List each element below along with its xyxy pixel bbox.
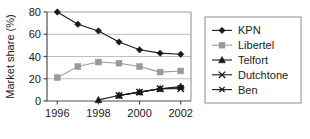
y-tick-label-0: 0 xyxy=(35,95,41,107)
x-tick-label-2002: 2002 xyxy=(168,107,192,119)
y-axis-ticks: 020406080 xyxy=(29,6,47,107)
legend-marker-square-libertel xyxy=(219,42,225,48)
data-point-libertel-1 xyxy=(75,64,81,70)
x-tick-label-1996: 1996 xyxy=(45,107,69,119)
legend-label-telfort: Telfort xyxy=(238,54,268,66)
y-tick-label-20: 20 xyxy=(29,73,41,85)
data-point-kpn-0 xyxy=(54,9,60,15)
series-line-kpn xyxy=(57,12,180,54)
legend-label-dutchtone: Dutchtone xyxy=(238,69,288,81)
legend: KPNLibertelTelfortDutchtoneBen xyxy=(205,17,301,103)
y-tick-label-80: 80 xyxy=(29,6,41,18)
legend-label-kpn: KPN xyxy=(238,24,261,36)
series-kpn xyxy=(54,9,184,58)
data-point-libertel-6 xyxy=(178,68,184,74)
series-libertel xyxy=(54,59,183,80)
legend-label-ben: Ben xyxy=(238,84,258,96)
y-axis-title: Market share (%) xyxy=(4,14,16,98)
data-point-kpn-1 xyxy=(75,21,81,27)
data-point-kpn-4 xyxy=(136,47,142,53)
data-point-libertel-0 xyxy=(54,75,60,81)
chart-container: 0204060801996199820002002Market share (%… xyxy=(0,0,310,139)
x-axis-ticks: 1996199820002002 xyxy=(45,101,193,119)
y-tick-label-60: 60 xyxy=(29,28,41,40)
data-point-libertel-3 xyxy=(116,60,122,66)
data-point-libertel-5 xyxy=(157,69,163,75)
x-tick-label-1998: 1998 xyxy=(86,107,110,119)
data-point-kpn-3 xyxy=(116,39,122,45)
data-point-libertel-4 xyxy=(137,64,143,70)
data-point-kpn-5 xyxy=(157,50,163,56)
data-point-libertel-2 xyxy=(96,59,102,65)
data-point-kpn-2 xyxy=(95,28,101,34)
x-tick-label-2000: 2000 xyxy=(127,107,151,119)
y-tick-label-40: 40 xyxy=(29,51,41,63)
market-share-line-chart: 0204060801996199820002002Market share (%… xyxy=(0,0,310,139)
legend-label-libertel: Libertel xyxy=(238,39,274,51)
